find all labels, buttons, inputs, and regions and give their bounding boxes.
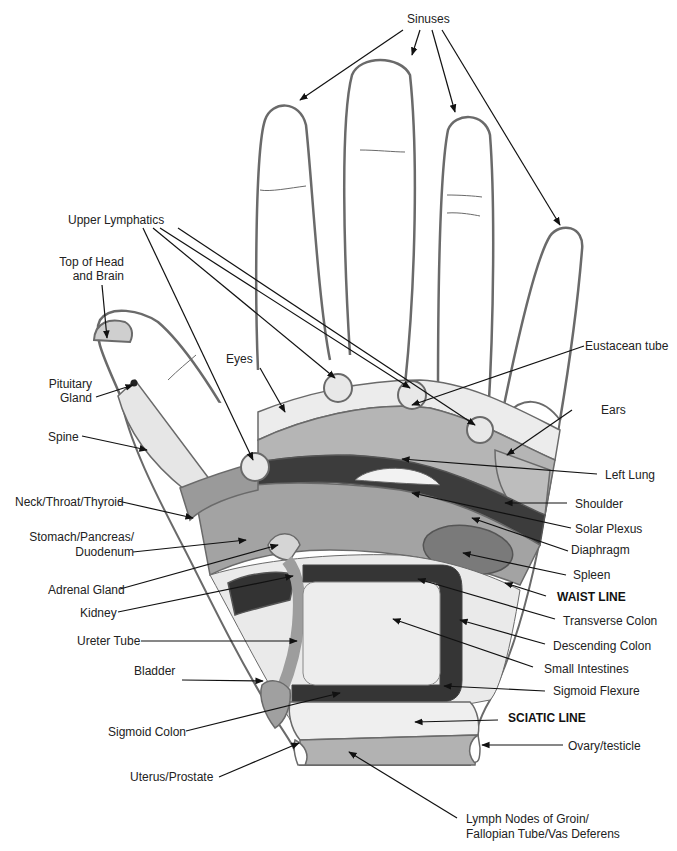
label-descending-colon: Descending Colon — [553, 639, 651, 653]
label-diaphragm: Diaphragm — [571, 543, 630, 557]
label-shoulder: Shoulder — [575, 497, 623, 511]
ring-finger — [438, 117, 493, 418]
label-lymph-nodes-line2: Fallopian Tube/Vas Deferens — [466, 827, 620, 841]
label-eustacean-tube: Eustacean tube — [585, 339, 668, 353]
label-ears: Ears — [601, 403, 626, 417]
label-transverse-colon: Transverse Colon — [563, 614, 657, 628]
lymph-circle-4 — [467, 417, 493, 443]
label-adrenal-gland: Adrenal Gland — [48, 583, 125, 597]
label-lymph-nodes-line1: Lymph Nodes of Groin/ — [466, 812, 589, 826]
lymph-circle-2 — [324, 374, 352, 402]
label-sciatic-line: SCIATIC LINE — [508, 711, 586, 725]
label-stomach-line2: Duodenum — [20, 545, 134, 559]
label-top-of-head-line2: and Brain — [58, 269, 124, 283]
groin-lymph-band — [300, 735, 478, 765]
label-waist-line: WAIST LINE — [557, 590, 626, 604]
label-sinuses: Sinuses — [407, 12, 450, 26]
label-pituitary-line1: Pituitary — [40, 377, 92, 391]
label-upper-lymphatics: Upper Lymphatics — [68, 213, 164, 227]
label-small-intestines: Small Intestines — [544, 662, 629, 676]
label-solar-plexus: Solar Plexus — [575, 522, 642, 536]
label-pituitary-line2: Gland — [40, 391, 92, 405]
label-uterus-prostate: Uterus/Prostate — [130, 770, 213, 784]
label-left-lung: Left Lung — [605, 468, 655, 482]
label-sigmoid-flexure: Sigmoid Flexure — [553, 684, 640, 698]
label-top-of-head-line1: Top of Head — [58, 255, 124, 269]
lymph-circle-1 — [241, 453, 269, 481]
label-sigmoid-colon: Sigmoid Colon — [108, 725, 186, 739]
little-finger — [500, 228, 582, 425]
label-ureter-tube: Ureter Tube — [77, 634, 140, 648]
label-spleen: Spleen — [573, 568, 610, 582]
small-intestines — [303, 582, 440, 685]
middle-finger — [344, 60, 415, 385]
label-neck-throat-thyroid: Neck/Throat/Thyroid — [15, 495, 124, 509]
label-stomach-line1: Stomach/Pancreas/ — [20, 530, 134, 544]
reflexology-diagram: Sinuses Upper Lymphatics Top of Head and… — [0, 0, 677, 851]
label-eyes: Eyes — [226, 352, 253, 366]
label-kidney: Kidney — [80, 606, 117, 620]
label-ovary-testicle: Ovary/testicle — [568, 739, 641, 753]
label-spine: Spine — [48, 430, 79, 444]
label-bladder: Bladder — [134, 664, 175, 678]
